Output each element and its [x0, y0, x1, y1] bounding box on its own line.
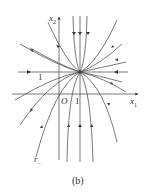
curve-label-r-minus: r− [34, 155, 41, 166]
phase-portrait [0, 0, 146, 194]
x-tick-1: 1 [75, 97, 80, 106]
y-tick-1: 1 [38, 73, 43, 82]
figure-caption: (b) [72, 176, 84, 186]
x1-label-sub: 1 [134, 102, 137, 108]
origin-label: O [61, 97, 68, 106]
x1-axis-label: x1 [130, 97, 137, 108]
curve-label-sub: − [38, 160, 41, 166]
x2-axis-label: x2 [49, 14, 56, 25]
x2-label-sub: 2 [53, 19, 56, 25]
